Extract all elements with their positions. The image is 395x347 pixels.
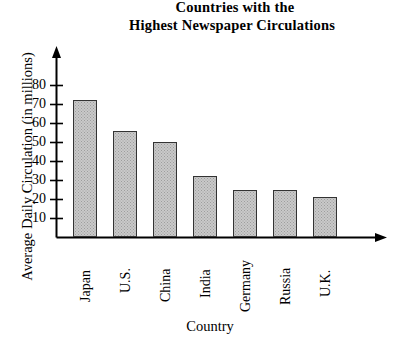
x-tick-label-uk: U.K. xyxy=(318,270,334,297)
x-tick-label-japan: Japan xyxy=(78,270,94,302)
x-tick-label-germany: Germany xyxy=(238,260,254,312)
y-tick-label-80: 80 xyxy=(12,78,46,92)
y-tick-label-40: 40 xyxy=(12,154,46,168)
y-tick-label-10: 10 xyxy=(12,211,46,225)
bar-japan xyxy=(73,100,97,237)
y-axis-arrowhead-icon xyxy=(52,46,61,58)
newspaper-circulation-chart: Countries with the Highest Newspaper Cir… xyxy=(0,0,395,347)
bar-india xyxy=(193,176,217,237)
y-tick-label-50: 50 xyxy=(12,135,46,149)
y-tick-label-30: 30 xyxy=(12,173,46,187)
x-tick-label-us: U.S. xyxy=(118,268,134,293)
y-tick-label-70: 70 xyxy=(12,97,46,111)
bar-germany xyxy=(233,190,257,238)
bar-us xyxy=(113,131,137,237)
bar-uk xyxy=(313,197,337,237)
x-tick-label-india: India xyxy=(198,269,214,298)
y-tick-label-20: 20 xyxy=(12,192,46,206)
x-tick-label-china: China xyxy=(158,269,174,302)
x-axis-arrowhead-icon xyxy=(375,233,387,242)
y-tick-label-60: 60 xyxy=(12,116,46,130)
plot-area: 80 70 60 50 40 30 20 10 Japan U.S. China… xyxy=(0,0,395,347)
bar-china xyxy=(153,142,177,237)
bar-russia xyxy=(273,190,297,238)
x-tick-label-russia: Russia xyxy=(278,268,294,305)
